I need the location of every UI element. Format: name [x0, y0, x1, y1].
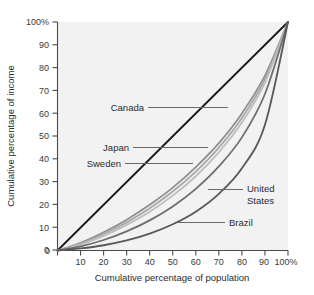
x-tick-label: 60 — [191, 257, 201, 267]
callout-labels: Canada Japan Sweden United States Brazil — [87, 102, 275, 228]
x-tick-label: 70 — [214, 257, 224, 267]
x-tick-label: 100% — [274, 257, 297, 267]
series-curves — [58, 22, 289, 251]
series-label-canada: Canada — [111, 102, 145, 113]
y-tick-label: 60 — [39, 109, 49, 119]
x-tick-label: 90 — [259, 257, 269, 267]
lorenz-curve-chart: 100% 90 80 70 60 50 40 30 20 10 0 — [0, 0, 314, 295]
y-tick-label: 50 — [39, 131, 49, 141]
y-axis-title: Cumulative percentage of income — [5, 65, 16, 207]
y-tick-label: 100% — [26, 17, 49, 27]
curve-line-of-equality — [58, 22, 289, 251]
x-tick-label: 10 — [76, 257, 86, 267]
series-label-japan: Japan — [103, 142, 129, 153]
x-axis-title: Cumulative percentage of population — [95, 272, 250, 283]
x-tick-label: 50 — [168, 257, 178, 267]
y-tick-label: 90 — [39, 40, 49, 50]
x-axis-ticks — [58, 251, 289, 256]
y-axis-ticks — [53, 22, 58, 250]
y-tick-label: 30 — [39, 177, 49, 187]
x-tick-label: 0 — [45, 246, 50, 256]
series-label-brazil: Brazil — [229, 217, 253, 228]
chart-canvas: 100% 90 80 70 60 50 40 30 20 10 0 — [0, 0, 314, 295]
y-tick-label: 20 — [39, 200, 49, 210]
y-axis-tick-labels: 100% 90 80 70 60 50 40 30 20 10 0 — [26, 17, 49, 255]
x-tick-label: 40 — [145, 257, 155, 267]
x-tick-label: 30 — [122, 257, 132, 267]
y-tick-label: 80 — [39, 63, 49, 73]
series-label-united-states-line2: States — [247, 195, 274, 206]
x-tick-label: 20 — [99, 257, 109, 267]
x-tick-label: 80 — [237, 257, 247, 267]
y-tick-label: 40 — [39, 154, 49, 164]
series-label-sweden: Sweden — [87, 158, 121, 169]
y-tick-label: 10 — [39, 223, 49, 233]
y-tick-label: 70 — [39, 86, 49, 96]
series-label-united-states-line1: United — [247, 183, 274, 194]
